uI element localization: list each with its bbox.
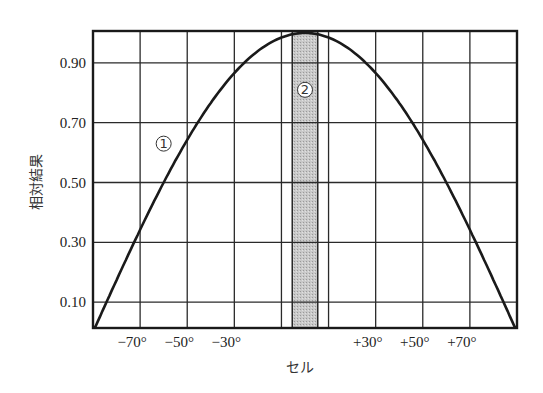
x-tick-label: −70° xyxy=(117,334,146,350)
y-tick-label: 0.30 xyxy=(60,234,86,250)
x-tick-label: +50° xyxy=(400,334,429,350)
x-tick-label: +30° xyxy=(353,334,382,350)
x-axis-ticks: −70°−50°−30°+30°+50°+70° xyxy=(117,334,476,350)
annotation-label: 2 xyxy=(301,82,309,97)
y-axis-title: 相対結果 xyxy=(28,154,44,210)
shaded-band-rect xyxy=(292,31,318,328)
y-axis-ticks: 0.900.700.500.300.10 xyxy=(60,55,86,310)
x-tick-label: −50° xyxy=(164,334,193,350)
y-tick-label: 0.70 xyxy=(60,115,86,131)
annotation-label: 1 xyxy=(160,136,168,151)
y-tick-label: 0.50 xyxy=(60,175,86,191)
x-axis-title: セル xyxy=(286,359,314,375)
shaded-band-2 xyxy=(292,31,318,328)
x-tick-label: +70° xyxy=(447,334,476,350)
chart: 0.900.700.500.300.10 −70°−50°−30°+30°+50… xyxy=(0,0,543,393)
x-tick-label: −30° xyxy=(212,334,241,350)
y-tick-label: 0.10 xyxy=(60,294,86,310)
y-tick-label: 0.90 xyxy=(60,55,86,71)
